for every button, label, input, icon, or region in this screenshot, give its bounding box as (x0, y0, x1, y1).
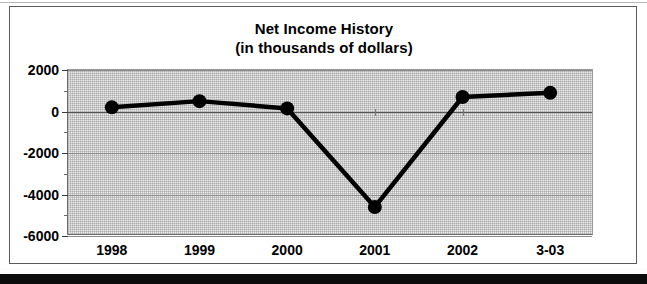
chart-title: Net Income History (in thousands of doll… (10, 19, 638, 57)
y-axis-label-0: 0 (51, 104, 59, 120)
y-axis-label--6000: -6000 (23, 228, 59, 244)
y-tick--6000 (62, 236, 68, 237)
y-axis-label-2000: 2000 (28, 62, 59, 78)
scanned-page: Net Income History (in thousands of doll… (0, 0, 647, 284)
data-point-1999 (193, 94, 207, 108)
chart-title-line-1: Net Income History (255, 20, 394, 37)
chart-title-line-2: (in thousands of dollars) (10, 38, 638, 57)
net-income-line-series (68, 70, 594, 236)
chart-figure-frame: Net Income History (in thousands of doll… (9, 6, 637, 264)
data-point-2002 (456, 90, 470, 104)
x-axis-label-3-03: 3-03 (536, 242, 564, 258)
series-line (112, 93, 550, 207)
x-axis-label-1999: 1999 (184, 242, 215, 258)
data-point-1998 (105, 100, 119, 114)
gridline--6000 (68, 236, 592, 237)
data-point-3-03 (543, 86, 557, 100)
plot-area: 20000-2000-4000-6000 1998199920002001200… (67, 69, 593, 235)
y-axis-label--2000: -2000 (23, 145, 59, 161)
data-point-2001 (368, 200, 382, 214)
x-axis-label-2000: 2000 (272, 242, 303, 258)
scan-artifact-top-line (0, 2, 647, 3)
data-point-2000 (280, 101, 294, 115)
x-axis-label-2002: 2002 (447, 242, 478, 258)
scan-artifact-bottom-bar (0, 274, 647, 284)
x-axis-label-1998: 1998 (96, 242, 127, 258)
y-axis-label--4000: -4000 (23, 187, 59, 203)
x-axis-label-2001: 2001 (359, 242, 390, 258)
